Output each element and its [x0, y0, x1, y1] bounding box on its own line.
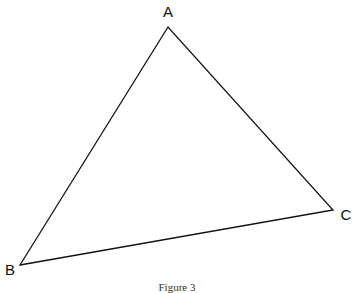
figure-caption: Figure 3: [0, 281, 354, 293]
vertex-label-b: B: [5, 261, 15, 278]
vertex-label-a: A: [163, 3, 173, 20]
vertex-label-c: C: [341, 206, 352, 223]
triangle-abc: [20, 27, 333, 265]
